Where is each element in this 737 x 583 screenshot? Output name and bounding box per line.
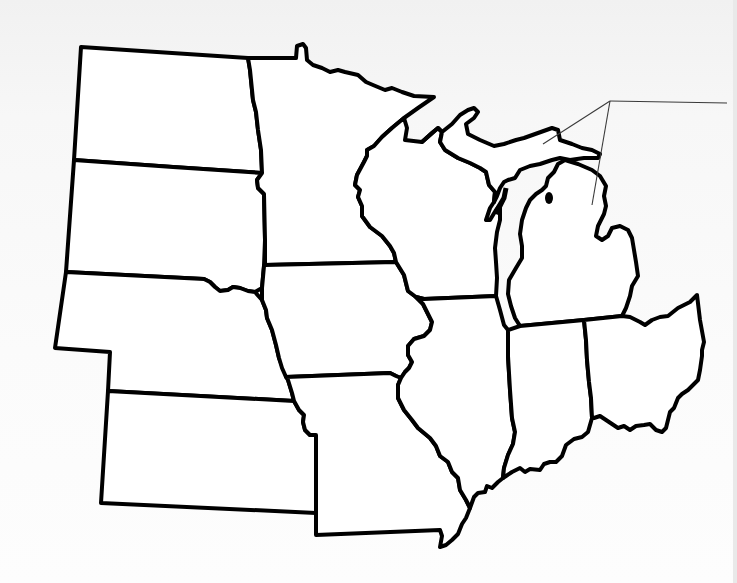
leader-line-to-upper-peninsula <box>543 101 610 144</box>
lake-detail-icon <box>545 192 553 204</box>
midwest-outline-map <box>0 0 737 583</box>
state-indiana[interactable] <box>503 320 592 478</box>
leader-line-horizontal <box>610 101 727 103</box>
page-edge-shadow <box>733 0 737 583</box>
state-north-dakota[interactable] <box>74 47 262 173</box>
state-michigan-lower[interactable] <box>508 160 638 326</box>
map-canvas <box>0 0 737 583</box>
state-kansas[interactable] <box>101 391 316 513</box>
